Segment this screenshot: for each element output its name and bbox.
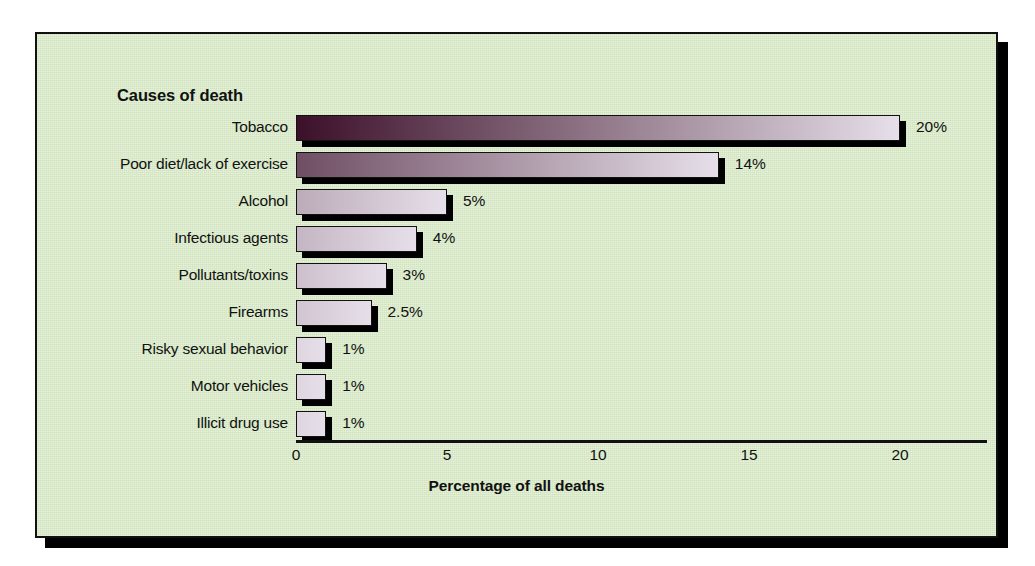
- x-axis-line: [296, 440, 987, 443]
- bar-row: Tobacco20%: [37, 115, 996, 141]
- bar-value-label: 20%: [916, 118, 947, 136]
- bar-value-label: 1%: [342, 414, 364, 432]
- bar-row: Risky sexual behavior1%: [37, 337, 996, 363]
- bar-category-label: Infectious agents: [174, 229, 288, 247]
- x-tick-label: 15: [740, 446, 757, 464]
- bar: [296, 226, 417, 252]
- bar-chart: Causes of death Tobacco20%Poor diet/lack…: [37, 34, 996, 536]
- bar-value-label: 4%: [433, 229, 455, 247]
- bar: [296, 189, 447, 215]
- bar-value-label: 1%: [342, 377, 364, 395]
- bar: [296, 337, 326, 363]
- bar-row: Pollutants/toxins3%: [37, 263, 996, 289]
- bar-category-label: Risky sexual behavior: [141, 340, 288, 358]
- chart-panel: Causes of death Tobacco20%Poor diet/lack…: [35, 32, 998, 538]
- bar: [296, 300, 372, 326]
- bar-category-label: Pollutants/toxins: [179, 266, 288, 284]
- bar-fill: [296, 374, 326, 400]
- bar-fill: [296, 152, 719, 178]
- bar: [296, 263, 387, 289]
- x-tick-label: 10: [589, 446, 606, 464]
- bar-category-label: Poor diet/lack of exercise: [120, 155, 288, 173]
- bar-category-label: Motor vehicles: [191, 377, 288, 395]
- bar-fill: [296, 189, 447, 215]
- bar-value-label: 1%: [342, 340, 364, 358]
- bar-category-label: Firearms: [228, 303, 288, 321]
- bar-row: Illicit drug use1%: [37, 411, 996, 437]
- bar-row: Poor diet/lack of exercise14%: [37, 152, 996, 178]
- bar-fill: [296, 115, 900, 141]
- bar-row: Firearms2.5%: [37, 300, 996, 326]
- bar-category-label: Illicit drug use: [196, 414, 288, 432]
- bar-fill: [296, 411, 326, 437]
- bar-fill: [296, 263, 387, 289]
- bar: [296, 115, 900, 141]
- bar-row: Motor vehicles1%: [37, 374, 996, 400]
- bar: [296, 152, 719, 178]
- bar-fill: [296, 226, 417, 252]
- bar-rows: Tobacco20%Poor diet/lack of exercise14%A…: [37, 34, 996, 536]
- bar-row: Infectious agents4%: [37, 226, 996, 252]
- bar-category-label: Tobacco: [232, 118, 288, 136]
- bar-fill: [296, 300, 372, 326]
- bar-category-label: Alcohol: [239, 192, 288, 210]
- bar: [296, 411, 326, 437]
- x-tick-label: 5: [443, 446, 452, 464]
- bar-value-label: 3%: [403, 266, 425, 284]
- x-tick-label: 20: [891, 446, 908, 464]
- bar-value-label: 14%: [735, 155, 766, 173]
- bar-value-label: 5%: [463, 192, 485, 210]
- bar-fill: [296, 337, 326, 363]
- bar: [296, 374, 326, 400]
- x-tick-label: 0: [292, 446, 301, 464]
- bar-value-label: 2.5%: [388, 303, 423, 321]
- bar-row: Alcohol5%: [37, 189, 996, 215]
- x-axis-title: Percentage of all deaths: [37, 477, 996, 495]
